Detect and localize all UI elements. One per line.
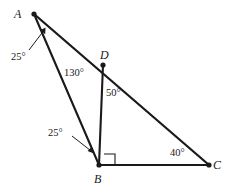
vertex-label-D: D <box>100 49 109 61</box>
vertex-label-A: A <box>14 8 21 20</box>
vertex-dot-D <box>100 62 105 67</box>
geometry-diagram: A B C D 25° 25° 130° 50° 40° <box>0 0 229 191</box>
vertex-dot-C <box>206 162 211 167</box>
angle-label-at-A: 25° <box>11 52 26 63</box>
leader-line-angle-at-A <box>29 31 44 50</box>
vertex-dot-A <box>31 11 36 16</box>
angle-label-ADB: 130° <box>64 68 84 79</box>
vertex-dot-B <box>96 162 101 167</box>
angle-label-at-C: 40° <box>170 148 185 159</box>
segment-AC <box>34 14 209 165</box>
angle-label-BDC: 50° <box>106 88 121 99</box>
segment-AB <box>34 14 99 165</box>
vertex-label-C: C <box>213 159 221 171</box>
segment-DB <box>99 65 103 165</box>
vertex-label-B: B <box>94 173 101 185</box>
right-angle-marker-at-B <box>104 154 115 165</box>
angle-label-ABD: 25° <box>48 128 63 139</box>
